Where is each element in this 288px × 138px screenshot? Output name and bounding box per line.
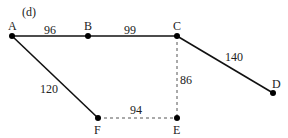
node-a bbox=[9, 33, 15, 39]
node-label-e: E bbox=[173, 123, 180, 137]
node-label-f: F bbox=[94, 123, 101, 137]
node-b bbox=[85, 33, 91, 39]
weight-b-c: 99 bbox=[124, 23, 136, 37]
graph-diagram: (d) 96 99 140 120 94 86 A B C D E F bbox=[0, 0, 288, 138]
weight-a-b: 96 bbox=[44, 23, 56, 37]
nodes bbox=[9, 33, 276, 121]
edge-weights: 96 99 140 120 94 86 bbox=[40, 23, 243, 117]
weight-f-e: 94 bbox=[130, 103, 142, 117]
node-e bbox=[174, 115, 180, 121]
node-label-d: D bbox=[272, 77, 281, 91]
weight-a-f: 120 bbox=[40, 82, 58, 96]
edge-a-f bbox=[12, 36, 98, 118]
node-label-c: C bbox=[173, 19, 181, 33]
panel-label: (d) bbox=[22, 5, 36, 19]
node-f bbox=[95, 115, 101, 121]
node-label-a: A bbox=[8, 19, 17, 33]
weight-c-e: 86 bbox=[180, 73, 192, 87]
node-c bbox=[174, 33, 180, 39]
weight-c-d: 140 bbox=[225, 50, 243, 64]
edges bbox=[12, 36, 273, 118]
node-label-b: B bbox=[84, 19, 92, 33]
